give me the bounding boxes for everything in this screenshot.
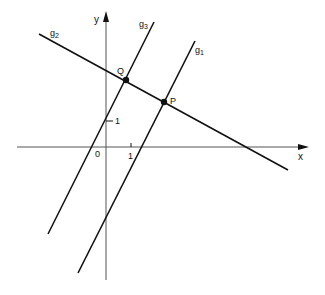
line-g3-label: g3: [139, 19, 148, 30]
diagram-canvas: y x 0 1 1 Q P g2 g3 g1: [0, 0, 325, 295]
origin-label: 0: [95, 149, 100, 159]
y-axis-label: y: [94, 14, 99, 25]
y-axis-arrow-icon: [103, 11, 109, 22]
x-tick-label: 1: [128, 151, 133, 161]
line-g2-label: g2: [50, 28, 59, 39]
point-p: [161, 99, 167, 105]
y-tick-label: 1: [115, 116, 120, 126]
x-axis-arrow-icon: [298, 144, 309, 150]
point-q: [123, 77, 129, 83]
line-g1-label: g1: [195, 45, 204, 56]
point-p-label: P: [170, 96, 176, 106]
x-axis-label: x: [298, 151, 303, 162]
point-q-label: Q: [117, 66, 124, 76]
line-g3: [48, 22, 154, 234]
coordinate-diagram: y x 0 1 1 Q P g2 g3 g1: [0, 0, 325, 295]
